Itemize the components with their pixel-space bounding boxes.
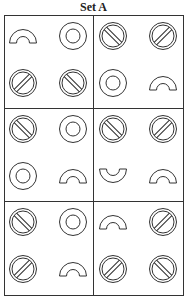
shape-grid (4, 15, 184, 296)
arch-icon (148, 161, 178, 191)
ring-icon (58, 21, 88, 51)
ring-icon (58, 114, 88, 144)
no-sign-backslash-icon (98, 114, 128, 144)
cup-icon (98, 161, 128, 191)
no-sign-backslash-icon (148, 254, 178, 284)
horizontal-divider-2 (5, 201, 183, 202)
no-sign-backslash-icon (98, 21, 128, 51)
arch-icon (98, 207, 128, 237)
ring-icon (8, 161, 38, 191)
arch-icon (58, 254, 88, 284)
no-sign-slash-icon (98, 254, 128, 284)
no-sign-slash-icon (148, 114, 178, 144)
vertical-divider (93, 16, 94, 295)
no-sign-backslash-icon (58, 68, 88, 98)
ring-icon (98, 68, 128, 98)
no-sign-slash-icon (148, 207, 178, 237)
ring-icon (58, 207, 88, 237)
no-sign-slash-icon (8, 68, 38, 98)
no-sign-backslash-icon (8, 207, 38, 237)
arch-icon (8, 21, 38, 51)
horizontal-divider-1 (5, 108, 183, 109)
arch-icon (148, 68, 178, 98)
no-sign-backslash-icon (8, 114, 38, 144)
no-sign-slash-icon (148, 21, 178, 51)
arch-icon (58, 161, 88, 191)
no-sign-slash-icon (8, 254, 38, 284)
set-title: Set A (0, 0, 187, 14)
